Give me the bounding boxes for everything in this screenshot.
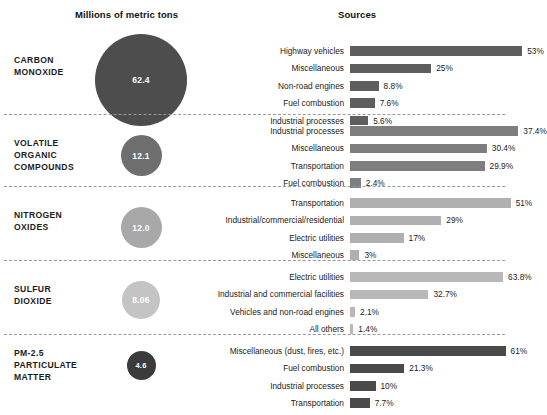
bar-row: Highway vehicles53%: [196, 44, 544, 58]
bar-category-label: Electric utilities: [196, 272, 350, 282]
bar-track: 51%: [350, 198, 532, 208]
pollutant-name-line: DIOXIDE: [14, 295, 86, 307]
bar-fill: [350, 324, 353, 334]
bar-track: 1.4%: [350, 324, 532, 334]
pollutant-name-line: MONOXIDE: [14, 66, 86, 78]
bar-value-label: 2.1%: [360, 307, 379, 317]
section-divider: [4, 114, 505, 115]
bar-category-label: Non-road engines: [196, 81, 350, 91]
bar-track: 29%: [350, 215, 532, 225]
bar-value-label: 29%: [446, 215, 463, 225]
bar-category-label: Industrial processes: [196, 126, 350, 136]
total-bubble: 12.1: [121, 135, 162, 176]
bar-row: Miscellaneous (dust, fires, etc.)61%: [196, 344, 527, 358]
bar-category-label: Industrial processes: [196, 381, 350, 391]
total-bubble-value: 8.06: [132, 295, 149, 305]
total-bubble-container: 12.0: [86, 195, 196, 248]
pollutant-name-line: COMPOUNDS: [14, 161, 86, 173]
pollutant-section: SULFURDIOXIDE8.06Electric utilities63.8%…: [0, 260, 511, 334]
pollutant-name: SULFURDIOXIDE: [14, 283, 86, 307]
total-bubble: 62.4: [95, 34, 187, 126]
section-divider: [4, 260, 505, 261]
bar-value-label: 61%: [511, 346, 528, 356]
total-bubble-container: 12.1: [86, 123, 196, 176]
bar-fill: [350, 307, 355, 317]
bar-value-label: 63.8%: [508, 272, 532, 282]
bar-category-label: Miscellaneous: [196, 143, 350, 153]
bar-row: Non-road engines8.8%: [196, 79, 544, 93]
bar-fill: [350, 64, 431, 74]
bar-track: 17%: [350, 233, 532, 243]
bar-fill: [350, 126, 518, 136]
bar-fill: [350, 346, 506, 356]
bar-track: 63.8%: [350, 272, 532, 282]
bar-category-label: All others: [196, 324, 350, 334]
pollutant-name-line: SULFUR: [14, 283, 86, 295]
total-bubble: 8.06: [122, 281, 160, 319]
bar-row: Industrial processes37.4%: [196, 124, 547, 138]
bar-value-label: 32.7%: [433, 289, 457, 299]
bar-track: 61%: [350, 346, 527, 356]
bar-category-label: Fuel combustion: [196, 363, 350, 373]
bar-value-label: 30.4%: [492, 143, 516, 153]
bar-fill: [350, 216, 441, 226]
bar-row: Transportation51%: [196, 196, 532, 210]
total-bubble-value: 12.0: [132, 223, 149, 233]
bar-track: 2.1%: [350, 307, 532, 317]
source-bar-chart: Transportation51%Industrial/commercial/r…: [196, 196, 532, 266]
bar-category-label: Transportation: [196, 161, 350, 171]
pollutant-section: PM-2.5PARTICULATEMATTER4.6Miscellaneous …: [0, 334, 511, 406]
bar-fill: [350, 144, 487, 154]
bar-track: 32.7%: [350, 289, 532, 299]
header-sources: Sources: [338, 9, 376, 20]
bar-value-label: 29.9%: [490, 161, 514, 171]
section-divider: [4, 186, 505, 187]
bar-track: 29.9%: [350, 161, 547, 171]
pollutant-name: NITROGENOXIDES: [14, 209, 86, 233]
bar-row: Transportation7.7%: [196, 396, 527, 410]
pollutant-name-line: OXIDES: [14, 221, 86, 233]
bar-value-label: 53%: [527, 46, 544, 56]
bar-fill: [350, 381, 376, 391]
bar-category-label: Miscellaneous: [196, 63, 350, 73]
bar-fill: [350, 233, 404, 243]
source-bar-chart: Industrial processes37.4%Miscellaneous30…: [196, 124, 547, 194]
bar-category-label: Electric utilities: [196, 233, 350, 243]
bar-value-label: 17%: [409, 233, 426, 243]
bar-value-label: 1.4%: [358, 324, 377, 334]
bar-track: 3%: [350, 250, 532, 260]
bar-value-label: 7.6%: [380, 98, 399, 108]
bar-category-label: Industrial and commercial facilities: [196, 289, 350, 299]
bar-fill: [350, 398, 370, 408]
bar-fill: [350, 198, 511, 208]
bar-category-label: Miscellaneous (dust, fires, etc.): [196, 346, 350, 356]
pollutant-name-line: NITROGEN: [14, 209, 86, 221]
bar-track: 30.4%: [350, 143, 547, 153]
source-bar-chart: Miscellaneous (dust, fires, etc.)61%Fuel…: [196, 344, 527, 414]
total-bubble: 4.6: [127, 351, 156, 380]
bar-fill: [350, 81, 379, 91]
bar-category-label: Highway vehicles: [196, 46, 350, 56]
source-bar-chart: Electric utilities63.8%Industrial and co…: [196, 270, 532, 340]
bar-row: Miscellaneous25%: [196, 61, 544, 75]
total-bubble: 12.0: [121, 207, 162, 248]
pollutant-name-line: PM-2.5: [14, 347, 86, 359]
pollutant-name-line: VOLATILE: [14, 137, 86, 149]
bar-row: Transportation29.9%: [196, 159, 547, 173]
bar-value-label: 21.3%: [409, 363, 433, 373]
bar-value-label: 3%: [364, 250, 376, 260]
bar-category-label: Miscellaneous: [196, 250, 350, 260]
bar-track: 53%: [350, 46, 544, 56]
pollutant-section: NITROGENOXIDES12.0Transportation51%Indus…: [0, 186, 511, 260]
bar-row: Electric utilities63.8%: [196, 270, 532, 284]
chart-header: Millions of metric tons Sources: [0, 0, 511, 24]
section-divider: [4, 334, 505, 335]
pollutant-name-line: MATTER: [14, 371, 86, 383]
bar-row: Fuel combustion7.6%: [196, 96, 544, 110]
bar-row: Industrial and commercial facilities32.7…: [196, 287, 532, 301]
pollutant-name: CARBONMONOXIDE: [14, 54, 86, 78]
total-bubble-value: 62.4: [132, 75, 149, 85]
bar-row: Fuel combustion21.3%: [196, 361, 527, 375]
bar-fill: [350, 250, 359, 260]
